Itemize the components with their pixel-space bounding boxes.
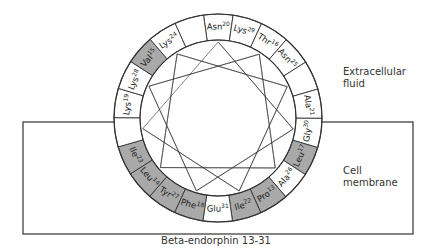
helical-wheel-diagram: Asn20Lys29Thr16Asn25Ala21Gly30Leu17Ala26…	[0, 0, 432, 251]
diagram-caption: Beta-endorphin 13-31	[0, 235, 432, 246]
wheel-graphic: Asn20Lys29Thr16Asn25Ala21Gly30Leu17Ala26…	[0, 0, 432, 251]
cell-membrane-label: Cell membrane	[343, 165, 398, 189]
extracellular-fluid-label: Extracellular fluid	[343, 66, 406, 90]
